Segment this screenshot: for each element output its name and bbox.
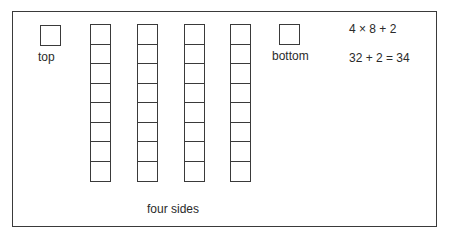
unit-square <box>230 161 251 182</box>
side-column-4 <box>230 24 251 182</box>
unit-square <box>184 24 205 45</box>
unit-square <box>90 24 111 45</box>
unit-square <box>90 161 111 182</box>
unit-square <box>90 83 111 104</box>
unit-square <box>184 102 205 123</box>
bottom-face-square <box>279 24 300 45</box>
unit-square <box>137 161 158 182</box>
unit-square <box>137 63 158 84</box>
unit-square <box>137 141 158 162</box>
side-column-3 <box>184 24 205 182</box>
unit-square <box>230 141 251 162</box>
bottom-face-label: bottom <box>272 49 309 63</box>
unit-square <box>184 63 205 84</box>
diagram-frame <box>12 11 437 227</box>
unit-square <box>137 24 158 45</box>
four-sides-label: four sides <box>147 202 199 216</box>
unit-square <box>184 141 205 162</box>
equation-line-1: 4 × 8 + 2 <box>349 22 396 36</box>
unit-square <box>184 161 205 182</box>
unit-square <box>90 102 111 123</box>
unit-square <box>90 141 111 162</box>
unit-square <box>137 102 158 123</box>
unit-square <box>230 102 251 123</box>
unit-square <box>90 44 111 65</box>
unit-square <box>184 83 205 104</box>
unit-square <box>230 83 251 104</box>
equation-line-2: 32 + 2 = 34 <box>349 51 410 65</box>
unit-square <box>90 63 111 84</box>
unit-square <box>230 44 251 65</box>
unit-square <box>230 24 251 45</box>
unit-square <box>137 83 158 104</box>
unit-square <box>90 122 111 143</box>
top-face-label: top <box>38 50 55 64</box>
top-face-square <box>40 25 61 46</box>
side-column-2 <box>137 24 158 182</box>
unit-square <box>137 44 158 65</box>
unit-square <box>184 44 205 65</box>
unit-square <box>230 63 251 84</box>
side-column-1 <box>90 24 111 182</box>
unit-square <box>184 122 205 143</box>
unit-square <box>230 122 251 143</box>
unit-square <box>137 122 158 143</box>
